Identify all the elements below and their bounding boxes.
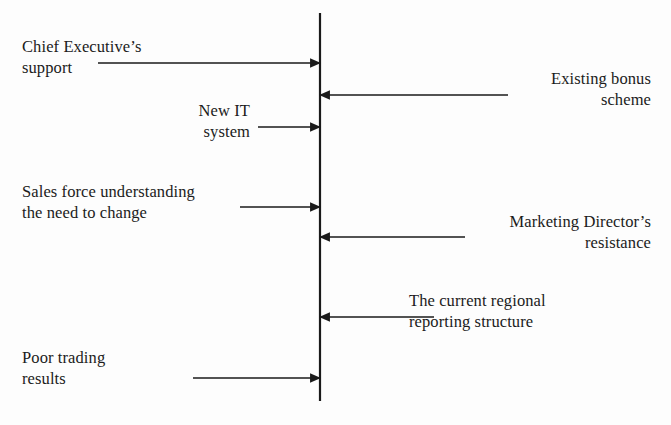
restraining-force-label-3: The current regional reporting structure [409, 290, 649, 332]
restraining-force-label-2: Marketing Director’s resistance [420, 211, 651, 253]
force-field-diagram: Chief Executive’s support New IT system … [0, 0, 671, 425]
driving-force-label-3: Sales force understanding the need to ch… [22, 181, 195, 223]
driving-force-label-1: Chief Executive’s support [22, 36, 141, 78]
driving-force-label-4: Poor trading results [22, 347, 105, 389]
driving-force-label-2: New IT system [150, 100, 250, 142]
restraining-force-label-1: Existing bonus scheme [455, 68, 651, 110]
